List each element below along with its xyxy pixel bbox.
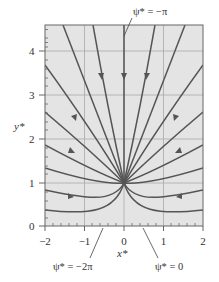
y-tick-label: 2: [29, 133, 35, 145]
x-tick-label: −2: [39, 235, 51, 247]
x-axis-label: x*: [116, 247, 128, 259]
x-tick-label: 2: [200, 235, 206, 247]
y-axis-label: y*: [13, 120, 25, 132]
y-tick-label: 3: [29, 89, 35, 101]
y-tick-label: 1: [29, 177, 35, 189]
streamline-plot: 4 3 2 1 0 −2 −1 0 1 2 y* x* ψ* = −π ψ* =…: [0, 0, 219, 282]
psi-right-annotation: ψ* = 0: [155, 261, 183, 272]
x-tick-label: 0: [121, 235, 127, 247]
psi-left-annotation: ψ* = −2π: [53, 261, 93, 272]
x-tick-label: −1: [79, 235, 91, 247]
x-tick-label: 1: [161, 235, 167, 247]
y-tick-label: 0: [29, 220, 35, 232]
y-tick-label: 4: [29, 45, 35, 57]
psi-top-annotation: ψ* = −π: [133, 6, 168, 17]
